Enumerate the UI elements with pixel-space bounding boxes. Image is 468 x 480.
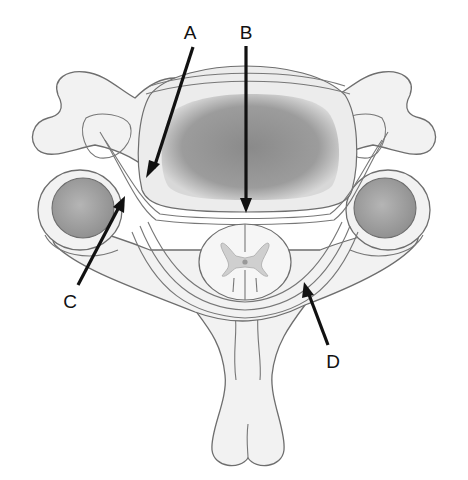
vertebra-diagram: A B C D xyxy=(0,0,468,480)
label-D: D xyxy=(326,351,340,372)
label-C: C xyxy=(63,291,77,312)
spinous-process xyxy=(195,305,305,466)
vertebral-body-cancellous xyxy=(162,94,339,200)
left-foramen-transversarium xyxy=(52,178,114,238)
central-canal xyxy=(242,259,247,264)
label-A: A xyxy=(184,22,197,43)
right-foramen-transversarium xyxy=(354,178,416,238)
label-B: B xyxy=(240,22,253,43)
